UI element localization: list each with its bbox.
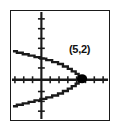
clipped-header-artifact xyxy=(0,0,119,9)
vertex-point-marker xyxy=(77,74,87,83)
calculator-graph-screenshot: (5,2) xyxy=(0,0,119,126)
graph-viewport-frame: (5,2) xyxy=(10,10,110,121)
vertex-coordinate-label: (5,2) xyxy=(69,43,90,55)
parabola-plot xyxy=(11,11,109,120)
parabola-upper-branch xyxy=(13,51,81,78)
